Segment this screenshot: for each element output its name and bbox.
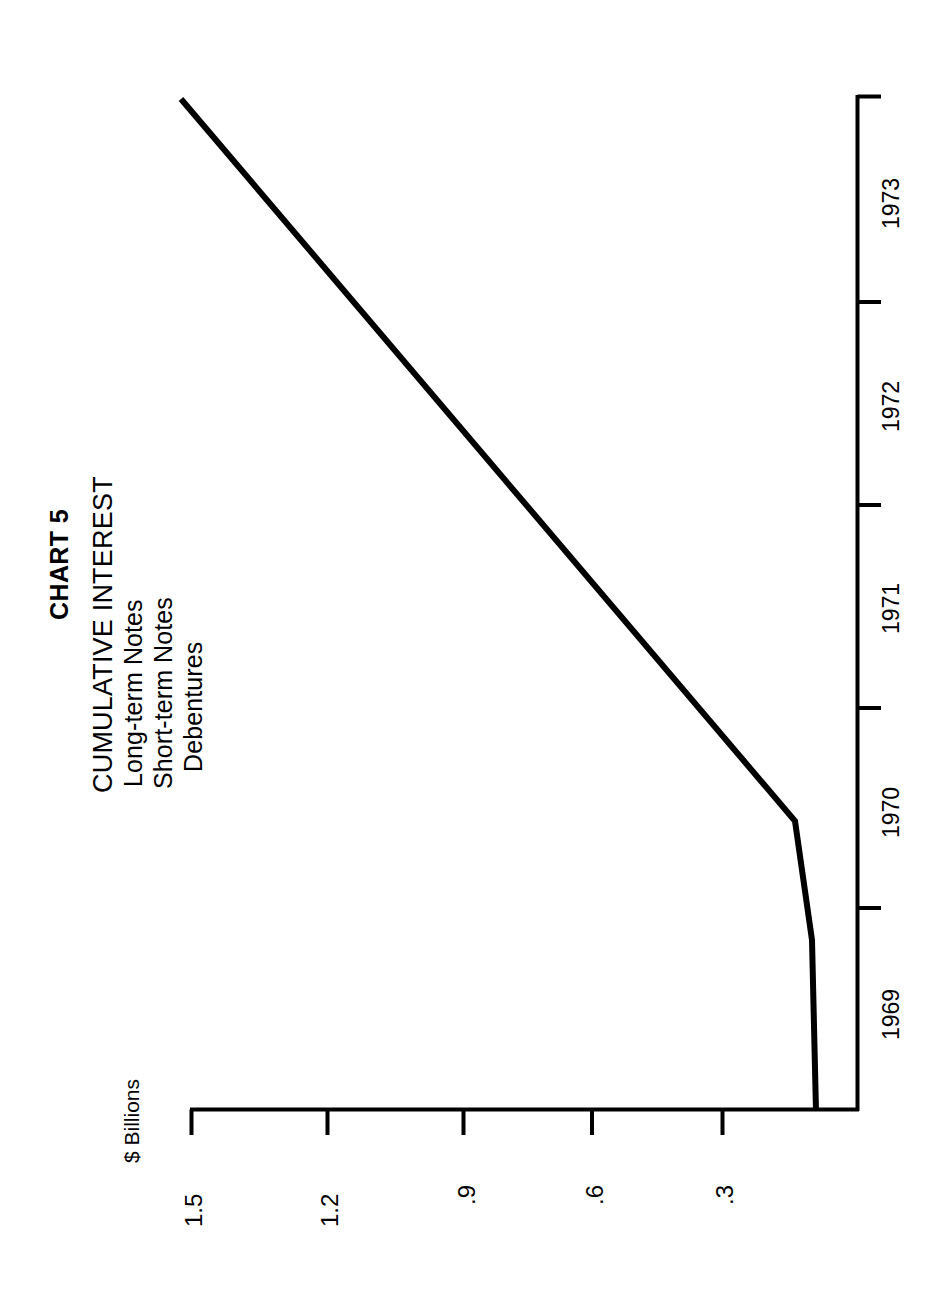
year-label-1969: 1969 [880,989,903,1040]
year-label-1971: 1971 [880,583,903,634]
year-label-1972: 1972 [880,381,903,432]
subtitle-line-debentures: Debentures [181,642,206,772]
subtitle-line-short-term-notes: Short-term Notes [151,597,176,789]
value-axis-title: $ Billions [121,1079,142,1163]
page-title: CUMULATIVE INTEREST [90,476,117,793]
year-label-1973: 1973 [880,178,903,229]
value-tick-label-2: 1.2 [318,1194,342,1227]
year-label-1970: 1970 [880,787,903,838]
value-tick-label-3: .9 [455,1185,479,1205]
value-axis [190,1110,859,1136]
data-series-cumulative-interest [181,99,816,1111]
value-tick-label-4: .6 [583,1185,607,1205]
chart-page: CHART 5 CUMULATIVE INTEREST Long-term No… [0,0,931,1299]
value-tick-label-5: .3 [713,1185,737,1205]
subtitle-line-long-term-notes: Long-term Notes [121,599,146,787]
chart-number-label: CHART 5 [47,509,72,620]
value-tick-label-1: 1.5 [182,1194,206,1227]
